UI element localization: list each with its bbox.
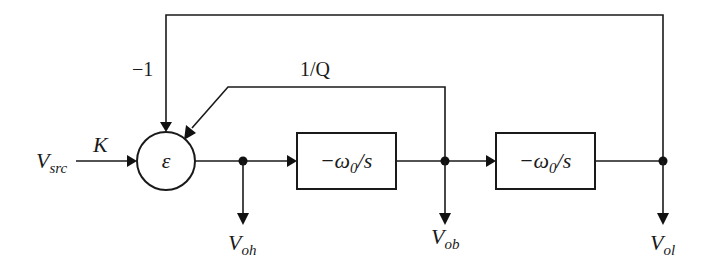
label-voh: Voh: [228, 230, 256, 258]
label-feedback-1-over-q: 1/Q: [300, 58, 331, 80]
arrow-head-block1: [287, 155, 297, 167]
arrow-head-inner-feedback: [184, 125, 196, 140]
arrow-head-vol: [657, 213, 669, 225]
label-summer-epsilon: ε: [162, 148, 171, 173]
label-vsrc: Vsrc: [36, 148, 68, 176]
arrow-head-voh: [237, 213, 249, 225]
label-block1: −ω0/s: [320, 148, 373, 176]
arrow-head-input: [127, 155, 137, 167]
block-diagram: Vsrc K ε −1 1/Q −ω0/s −ω0/s Voh Vob Vol: [0, 0, 707, 275]
label-block2: −ω0/s: [519, 148, 572, 176]
arrow-head-outer-feedback: [160, 122, 172, 132]
arrow-head-block2: [486, 155, 496, 167]
label-vol: Vol: [650, 230, 675, 258]
label-gain-k: K: [92, 132, 109, 157]
label-vob: Vob: [431, 224, 460, 252]
label-feedback-minus-one: −1: [132, 58, 153, 80]
